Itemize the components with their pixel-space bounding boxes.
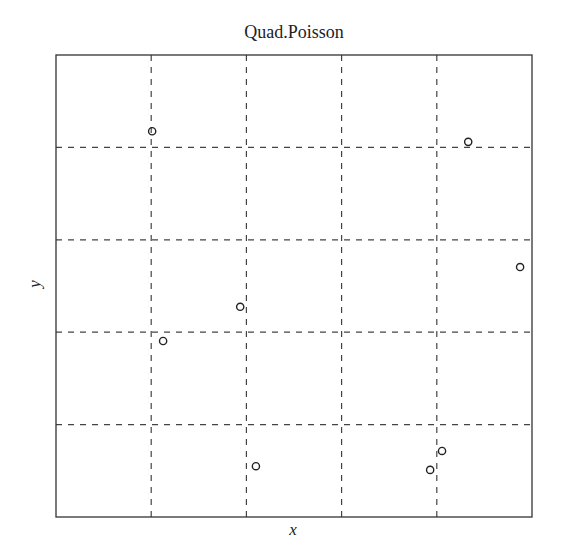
point-pattern — [149, 128, 524, 474]
data-point-circle-icon — [149, 128, 156, 135]
data-point-circle-icon — [252, 463, 259, 470]
data-point-circle-icon — [438, 447, 445, 454]
data-point-circle-icon — [465, 138, 472, 145]
data-point-circle-icon — [237, 303, 244, 310]
data-point-circle-icon — [517, 263, 524, 270]
y-axis-label: y — [25, 280, 44, 290]
quadrat-grid — [56, 55, 532, 517]
x-axis-label: x — [288, 520, 297, 539]
chart-title: Quad.Poisson — [244, 22, 344, 42]
chart-canvas: Quad.Poisson x y — [0, 0, 561, 558]
data-point-circle-icon — [160, 337, 167, 344]
plot-frame — [56, 55, 532, 517]
data-point-circle-icon — [427, 466, 434, 473]
